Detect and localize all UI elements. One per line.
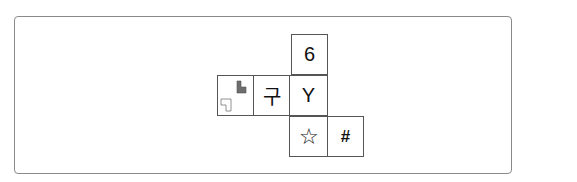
face-top: 6	[291, 34, 328, 75]
face-bottom: ☆	[289, 116, 328, 157]
face-center: Y	[289, 75, 328, 116]
face-label: 구	[263, 81, 281, 110]
face-left: 구	[253, 75, 290, 116]
l-shapes-icon	[217, 75, 254, 116]
face-label: Y	[302, 84, 315, 107]
hash-icon: #	[341, 127, 350, 147]
face-bottom-right: #	[327, 116, 364, 157]
face-pattern	[217, 75, 254, 116]
star-icon: ☆	[299, 124, 319, 150]
face-label: 6	[304, 43, 315, 66]
